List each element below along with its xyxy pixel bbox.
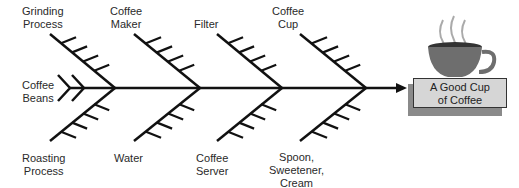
cause-label-filter: Filter [194, 5, 218, 31]
cause-label-coffee-maker: CoffeeMaker [110, 5, 142, 31]
cause-label-water: Water [114, 152, 143, 165]
effect-label-line2: of Coffee [414, 94, 506, 107]
effect-label-line1: A Good Cup [414, 81, 506, 94]
cause-label-coffee-server: CoffeeServer [196, 152, 228, 178]
cause-label-coffee-cup: CoffeeCup [272, 5, 304, 31]
effect-box: A Good Cup of Coffee [413, 78, 507, 108]
cause-label-coffee-beans: CoffeeBeans [22, 79, 54, 105]
coffee-cup-icon [428, 16, 494, 77]
cause-label-roasting-process: RoastingProcess [22, 152, 65, 178]
cause-label-spoon-sweetener-cream: Spoon,Sweetener,Cream [269, 151, 324, 188]
cause-label-grinding-process: GrindingProcess [22, 5, 64, 31]
